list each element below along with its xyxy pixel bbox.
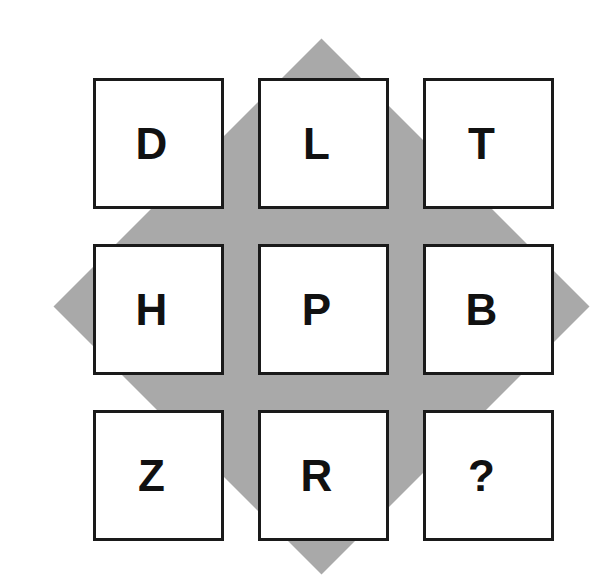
puzzle-canvas: D L T H P B Z R ?	[0, 0, 611, 586]
grid-cell-r2c3[interactable]: B	[423, 244, 554, 375]
grid-cell-r1c3[interactable]: T	[423, 78, 554, 209]
grid-cell-r2c1[interactable]: H	[93, 244, 224, 375]
grid-cell-r1c2[interactable]: L	[258, 78, 389, 209]
grid-cell-label-r3c3-question-mark: ?	[426, 454, 551, 498]
grid-cell-label-r3c1: Z	[96, 454, 221, 498]
grid-cell-label-r1c2: L	[261, 122, 386, 166]
grid-cell-label-r2c1: H	[96, 288, 221, 332]
letter-grid: D L T H P B Z R ?	[93, 78, 555, 537]
grid-cell-label-r2c2: P	[261, 288, 386, 332]
grid-cell-label-r1c3: T	[426, 122, 551, 166]
grid-cell-label-r1c1: D	[96, 122, 221, 166]
grid-cell-label-r3c2: R	[261, 454, 386, 498]
grid-cell-r1c1[interactable]: D	[93, 78, 224, 209]
grid-cell-r2c2[interactable]: P	[258, 244, 389, 375]
grid-cell-r3c3-unknown[interactable]: ?	[423, 410, 554, 541]
grid-cell-label-r2c3: B	[426, 288, 551, 332]
grid-cell-r3c2[interactable]: R	[258, 410, 389, 541]
grid-cell-r3c1[interactable]: Z	[93, 410, 224, 541]
